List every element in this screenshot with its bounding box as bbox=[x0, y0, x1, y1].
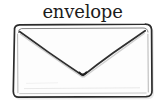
envelope-body bbox=[13, 24, 152, 97]
sketch-canvas: envelope bbox=[0, 0, 165, 109]
envelope-drawing bbox=[0, 0, 165, 109]
